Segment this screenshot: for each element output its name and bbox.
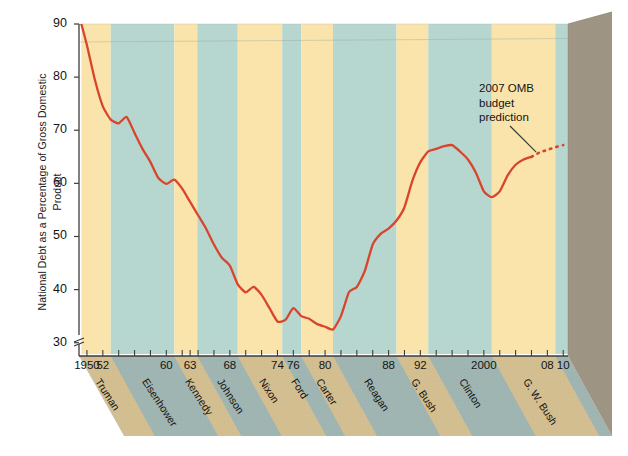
y-axis-ticks <box>74 24 79 343</box>
y-tick-label: 40 <box>41 282 67 296</box>
y-tick-label: 70 <box>41 122 67 136</box>
x-tick-label-92: 92 <box>402 359 438 371</box>
y-tick-label: 50 <box>41 228 67 242</box>
x-tick-label-80: 80 <box>307 359 343 371</box>
x-tick-label-2000: 2000 <box>466 359 502 371</box>
x-tick-label-63: 63 <box>172 359 208 371</box>
x-tick-label-52: 52 <box>85 359 121 371</box>
annotation-line-2: budget <box>479 96 571 111</box>
presidential-term-bands <box>79 22 568 358</box>
y-tick-label: 90 <box>41 16 67 30</box>
annotation-line-3: prediction <box>479 110 571 125</box>
annotation-line-1: 2007 OMB <box>479 81 571 96</box>
x-tick-label-88: 88 <box>371 359 407 371</box>
plot-texture <box>79 22 568 358</box>
y-tick-label: 60 <box>41 175 67 189</box>
x-tick-label-10: 10 <box>545 359 581 371</box>
y-axis-title: National Debt as a Percentage of Gross D… <box>35 67 69 317</box>
chart-figure: National Debt as a Percentage of Gross D… <box>0 0 628 456</box>
y-tick-label: 80 <box>41 69 67 83</box>
y-tick-label: 30 <box>41 335 67 349</box>
omb-prediction-annotation: 2007 OMB budget prediction <box>479 81 571 125</box>
x-tick-label-76: 76 <box>275 359 311 371</box>
x-tick-label-68: 68 <box>212 359 248 371</box>
